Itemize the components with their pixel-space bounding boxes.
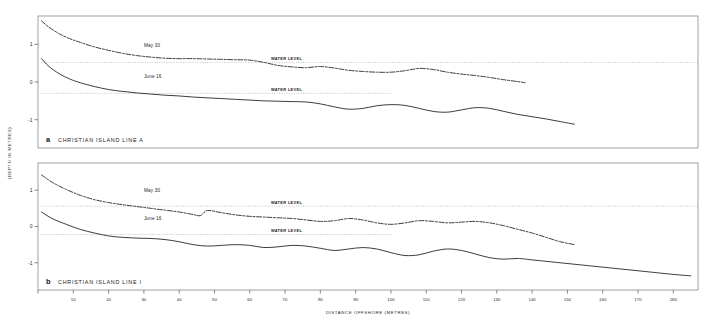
x-tick-label-2: 20 [106, 297, 111, 302]
figure-container: 10-1WATER LEVELWATER LEVELMay 30June 16a… [0, 0, 704, 327]
panel-caption-a: CHRISTIAN ISLAND LINE A [58, 137, 144, 143]
profile-curve-a-may-30 [42, 21, 526, 83]
panel-tag-a: a [46, 135, 51, 144]
y-tick-label-a-1: 0 [30, 79, 33, 85]
x-tick-label-18: 180 [670, 297, 678, 302]
curve-label-b-may-30: May 30 [144, 188, 161, 193]
x-tick-label-15: 150 [564, 297, 572, 302]
profile-curve-b-june-16 [42, 212, 691, 276]
x-tick-label-5: 50 [212, 297, 217, 302]
y-tick-label-b-1: 0 [30, 223, 33, 229]
x-tick-label-7: 70 [283, 297, 288, 302]
y-tick-label-a-0: 1 [30, 41, 33, 47]
curve-label-a-june-16: June 16 [144, 74, 162, 79]
x-tick-label-4: 40 [177, 297, 182, 302]
y-tick-label-b-0: 1 [30, 187, 33, 193]
x-axis-title: DISTANCE OFFSHORE (METRES) [326, 310, 410, 315]
x-tick-label-10: 100 [387, 297, 395, 302]
profile-curve-a-june-16 [42, 59, 575, 125]
curve-label-b-june-16: June 16 [144, 216, 162, 221]
panel-frame-b [38, 163, 698, 290]
x-tick-label-9: 90 [353, 297, 358, 302]
water-level-label-a-0: WATER LEVEL [271, 56, 303, 61]
x-tick-label-17: 170 [634, 297, 642, 302]
x-tick-label-1: 10 [71, 297, 76, 302]
x-tick-label-11: 110 [423, 297, 431, 302]
water-level-label-b-0: WATER LEVEL [271, 200, 303, 205]
water-level-label-a-1: WATER LEVEL [271, 87, 303, 92]
x-tick-label-3: 30 [141, 297, 146, 302]
beach-profile-figure: 10-1WATER LEVELWATER LEVELMay 30June 16a… [0, 0, 704, 327]
x-tick-label-16: 160 [599, 297, 607, 302]
curve-label-a-may-30: May 30 [144, 43, 161, 48]
x-tick-label-6: 60 [247, 297, 252, 302]
panel-frame-a [38, 16, 698, 148]
y-axis-title: (DEPTH IN METRES) [7, 127, 12, 179]
panel-tag-b: b [46, 277, 51, 286]
water-level-label-b-1: WATER LEVEL [271, 228, 303, 233]
x-tick-label-8: 80 [318, 297, 323, 302]
x-tick-label-13: 130 [493, 297, 501, 302]
x-tick-label-12: 120 [458, 297, 466, 302]
x-tick-label-14: 140 [528, 297, 536, 302]
y-tick-label-b-2: -1 [28, 260, 33, 266]
y-tick-label-a-2: -1 [28, 117, 33, 123]
panel-caption-b: CHRISTIAN ISLAND LINE I [58, 279, 142, 285]
